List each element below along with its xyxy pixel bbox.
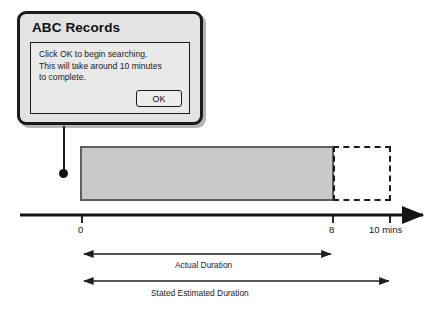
abc-records-dialog: ABC Records Click OK to begin searching.… xyxy=(17,11,203,125)
actual-duration-label: Actual Duration xyxy=(175,260,232,270)
ok-button[interactable]: OK xyxy=(136,90,182,107)
actual-duration-bar xyxy=(80,146,334,201)
dialog-message: Click OK to begin searching. This will t… xyxy=(39,49,183,84)
axis-label-0: 0 xyxy=(78,224,83,235)
stated-estimated-duration-label: Stated Estimated Duration xyxy=(151,288,249,298)
dialog-title: ABC Records xyxy=(32,20,120,35)
axis-label-10-mins: 10 mins xyxy=(369,224,402,235)
callout-anchor-dot xyxy=(59,169,68,178)
diagram-canvas: ABC Records Click OK to begin searching.… xyxy=(0,0,445,313)
dialog-body: Click OK to begin searching. This will t… xyxy=(30,42,190,114)
estimated-duration-bar-extension xyxy=(333,146,391,201)
callout-leader-line xyxy=(63,126,65,172)
axis-label-8: 8 xyxy=(329,224,334,235)
